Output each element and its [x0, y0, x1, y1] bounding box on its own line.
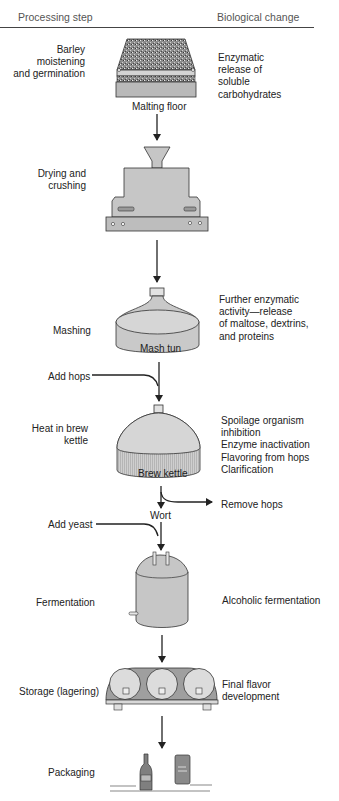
- add-yeast-arrow: [96, 524, 158, 536]
- packaging-illustration: [110, 754, 212, 791]
- malting-floor-illustration: Malting floor: [116, 39, 196, 112]
- drying-crushing-mill-illustration: [106, 147, 208, 231]
- mash-tun-label: Mash tun: [140, 343, 181, 354]
- lagering-tanks-illustration: [106, 668, 218, 710]
- process-flow-diagram: Malting floor Mash tun Brew kettle: [0, 0, 339, 801]
- brew-kettle-illustration: Brew kettle: [117, 405, 200, 479]
- malting-floor-label: Malting floor: [132, 101, 187, 112]
- brew-kettle-label: Brew kettle: [138, 468, 188, 479]
- remove-hops-arrow: [161, 492, 212, 502]
- mash-tun-illustration: Mash tun: [116, 288, 199, 354]
- add-hops-arrow: [92, 375, 158, 386]
- fermentation-tank-illustration: [129, 552, 188, 628]
